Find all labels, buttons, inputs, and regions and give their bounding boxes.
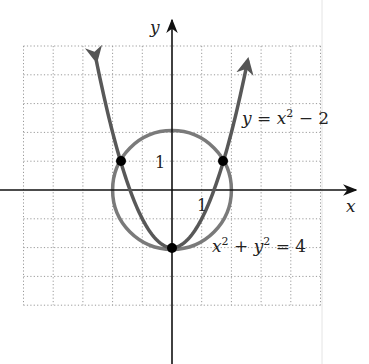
eq-exponent-2: 2 (263, 235, 270, 248)
y-axis-label: y (149, 17, 160, 37)
eq-exponent-1: 2 (222, 235, 229, 248)
intersection-point-left (116, 156, 126, 166)
circle-equation-label: x2 + y2 = 4 (212, 235, 306, 256)
eq-y: y (253, 236, 264, 256)
eq-rest: − 2 (293, 108, 329, 128)
eq-x: x (212, 236, 222, 256)
eq-exponent: 2 (286, 107, 293, 120)
eq-plus: + (229, 236, 254, 256)
intersection-point-right (218, 156, 228, 166)
y-tick-label-1: 1 (155, 153, 165, 172)
intersection-point-bottom (167, 243, 177, 253)
x-tick-label-1: 1 (197, 196, 207, 215)
x-axis-label: x (346, 196, 356, 216)
parabola-equation-label: y = x2 − 2 (241, 107, 329, 128)
eq-x: x (277, 108, 287, 128)
graph-figure: y x 1 1 y = x2 − 2 x2 + y2 = 4 (0, 0, 369, 364)
eq-y: y (241, 108, 252, 128)
eq-equals: = (252, 108, 277, 128)
eq-rest: = 4 (270, 236, 306, 256)
